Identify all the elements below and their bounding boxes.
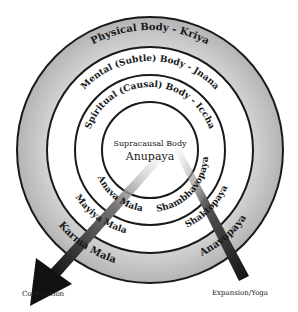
contraction-label: Contraction — [22, 290, 65, 298]
supracausal-title: Supracausal Body — [113, 139, 187, 148]
yoga-bodies-diagram: Physical Body - Kriya Mental (Subtle) Bo… — [0, 0, 298, 312]
anupaya-label: Anupaya — [125, 150, 175, 163]
expansion-yoga-label: Expansion/Yoga — [212, 289, 268, 297]
